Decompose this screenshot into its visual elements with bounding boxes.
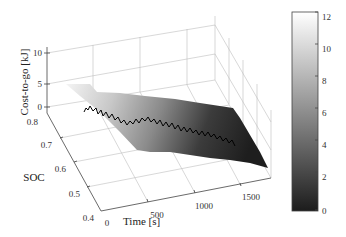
colorbar-tick-4: 4 <box>322 140 327 150</box>
colorbar <box>292 12 318 211</box>
soc-tick-0.7: 0.7 <box>41 140 53 150</box>
z-axis-label: Cost-to-go [kJ] <box>18 49 30 116</box>
colorbar-tick-8: 8 <box>322 76 327 86</box>
z-tick-5: 5 <box>38 79 43 89</box>
cost-surface <box>66 84 268 168</box>
z-tick-10: 10 <box>33 48 43 58</box>
colorbar-tick-12: 12 <box>322 12 331 22</box>
time-axis-label: Time [s] <box>123 215 160 227</box>
time-tick-1500: 1500 <box>242 192 261 202</box>
colorbar-tick-6: 6 <box>322 108 327 118</box>
colorbar-tick-0: 0 <box>322 206 327 216</box>
soc-tick-0.8: 0.8 <box>27 117 39 127</box>
time-tick-1000: 1000 <box>195 201 214 211</box>
colorbar-tick-2: 2 <box>322 172 327 182</box>
soc-axis-label: SOC <box>23 171 44 183</box>
soc-tick-0.4: 0.4 <box>83 213 95 223</box>
soc-tick-0.5: 0.5 <box>69 189 81 199</box>
surface-plot: 10 5 0 0.8 0.7 0.6 0.5 0.4 0 500 1000 15… <box>0 0 346 237</box>
time-tick-0: 0 <box>105 218 110 228</box>
z-tick-0: 0 <box>38 102 43 112</box>
colorbar-tick-10: 10 <box>322 44 332 54</box>
soc-tick-0.6: 0.6 <box>55 164 67 174</box>
back-wall-grid <box>47 16 215 107</box>
